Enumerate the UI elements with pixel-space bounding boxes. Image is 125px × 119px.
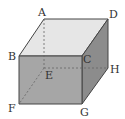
cube-diagram: A D B C E H F G	[0, 0, 125, 119]
vertex-label-A: A	[37, 6, 47, 19]
vertex-label-G: G	[80, 106, 89, 119]
vertex-label-B: B	[8, 50, 16, 63]
vertex-label-C: C	[83, 53, 91, 66]
vertex-label-H: H	[110, 63, 120, 76]
vertex-label-E: E	[45, 69, 53, 82]
vertex-label-D: D	[109, 8, 118, 21]
vertex-label-F: F	[8, 102, 16, 115]
